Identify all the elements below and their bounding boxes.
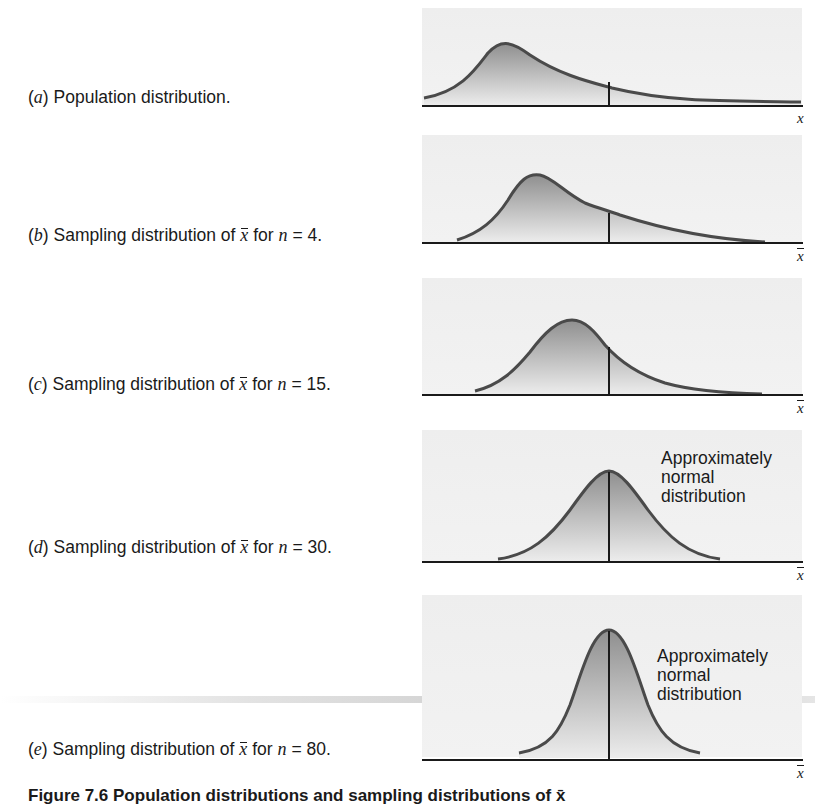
panel-caption-for: for [253,225,273,245]
panel-caption-text: Sampling distribution of [53,374,235,394]
panel-letter: b [34,225,43,245]
panel-c-plot: x [420,270,815,420]
annotation-line: normal [657,666,768,685]
panel-d-label: (d) Sampling distribution of x for n = 3… [28,538,332,557]
panel-a-plot: x [420,0,815,125]
axis-label-xbar: x [797,765,804,782]
n-value: = 80. [291,739,330,759]
panel-a-label: (a) Population distribution. [28,88,231,107]
panel-letter: d [34,537,43,557]
panel-caption-text: Population distribution. [54,87,231,107]
xbar-symbol: x [239,740,247,758]
panel-d-plot: Approximately normal distribution x [420,425,815,585]
axis-label-xbar: x [797,400,804,417]
axis-label-xbar: x [797,567,804,584]
panel-e-label: (e) Sampling distribution of x for n = 8… [28,740,331,759]
n-value: = 30. [292,537,331,557]
n-symbol: n [278,374,287,394]
n-value: = 15. [291,374,330,394]
panel-e-plot: Approximately normal distribution x [420,590,815,775]
panel-letter: e [34,739,42,759]
annotation-line: normal [661,468,772,487]
panel-caption-for: for [252,739,272,759]
axis-label-xbar: x [797,248,804,265]
annotation-line: distribution [661,487,772,506]
n-value: = 4. [292,225,322,245]
panel-caption-text: Sampling distribution of [54,537,236,557]
panel-letter: a [34,87,43,107]
normal-annotation: Approximately normal distribution [661,449,772,506]
figure-caption: Figure 7.6 Population distributions and … [28,786,565,806]
xbar-symbol: x [240,538,248,556]
panel-b-plot: x [420,125,815,265]
panel-b-label: (b) Sampling distribution of x for n = 4… [28,226,322,245]
n-symbol: n [278,739,287,759]
annotation-line: distribution [657,685,768,704]
panel-caption-text: Sampling distribution of [54,225,236,245]
xbar-symbol: x [239,375,247,393]
n-symbol: n [279,537,288,557]
n-symbol: n [279,225,288,245]
annotation-line: Approximately [661,449,772,468]
population-distribution-curve [420,0,815,125]
panel-caption-for: for [252,374,272,394]
xbar-symbol: x [240,226,248,244]
sampling-distribution-n4-curve [420,125,815,265]
panel-caption-for: for [253,537,273,557]
sampling-distribution-n15-curve [420,270,815,420]
annotation-line: Approximately [657,647,768,666]
normal-annotation: Approximately normal distribution [657,647,768,704]
panel-caption-text: Sampling distribution of [53,739,235,759]
panel-letter: c [34,374,42,394]
panel-c-label: (c) Sampling distribution of x for n = 1… [28,375,331,394]
